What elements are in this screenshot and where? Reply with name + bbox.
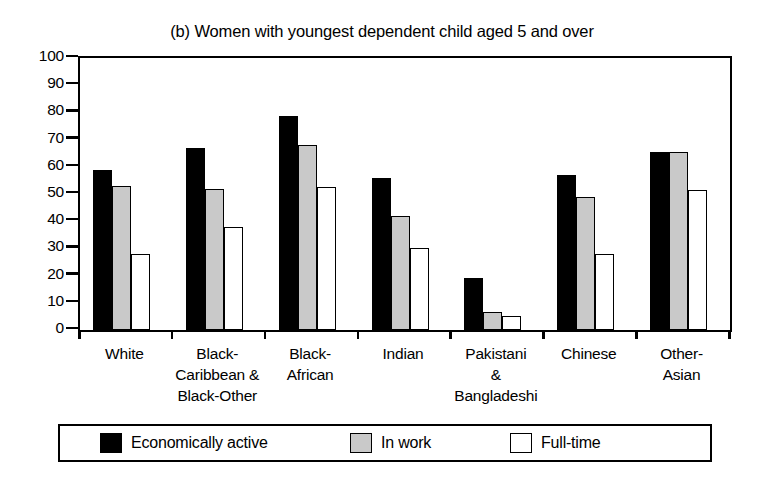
y-axis-tick-label: 60 bbox=[4, 154, 64, 176]
bar-chart-figure: (b) Women with youngest dependent child … bbox=[0, 0, 764, 489]
bar bbox=[131, 254, 150, 330]
y-axis-tick-label: 0 bbox=[4, 317, 64, 339]
bar bbox=[557, 175, 576, 330]
bar bbox=[224, 227, 243, 330]
bar bbox=[372, 178, 391, 330]
bar bbox=[464, 278, 483, 330]
y-axis-tick-label: 20 bbox=[4, 263, 64, 285]
bar bbox=[595, 254, 614, 330]
bar bbox=[688, 190, 707, 330]
y-axis-tick-mark bbox=[66, 300, 78, 303]
bar bbox=[112, 186, 131, 330]
y-axis-tick-label: 40 bbox=[4, 208, 64, 230]
bar bbox=[650, 152, 669, 330]
plot-area bbox=[78, 56, 732, 332]
bar bbox=[502, 316, 521, 330]
bar bbox=[576, 197, 595, 330]
bar bbox=[93, 170, 112, 330]
y-axis-tick-mark bbox=[66, 327, 78, 330]
x-axis-category-label: Other- Asian bbox=[617, 343, 746, 385]
bar bbox=[279, 116, 298, 330]
legend-color-swatch bbox=[510, 433, 532, 453]
y-axis-tick-label: 30 bbox=[4, 235, 64, 257]
bar bbox=[298, 145, 317, 330]
chart-legend: Economically activeIn workFull-time bbox=[58, 424, 712, 462]
bar bbox=[205, 189, 224, 330]
legend-label: Full-time bbox=[541, 434, 601, 452]
y-axis-tick-label: 80 bbox=[4, 99, 64, 121]
legend-entry: Economically active bbox=[100, 426, 268, 459]
legend-label: In work bbox=[381, 434, 431, 452]
bar bbox=[186, 148, 205, 330]
bar bbox=[391, 216, 410, 330]
y-axis-tick-mark bbox=[66, 109, 78, 112]
bar bbox=[317, 187, 336, 330]
y-axis-tick-mark bbox=[66, 245, 78, 248]
y-axis-tick-mark bbox=[66, 164, 78, 167]
y-axis-tick-mark bbox=[66, 136, 78, 139]
legend-color-swatch bbox=[100, 433, 122, 453]
legend-entry: Full-time bbox=[510, 426, 601, 459]
y-axis-tick-mark bbox=[66, 55, 78, 58]
y-axis-tick-label: 70 bbox=[4, 127, 64, 149]
y-axis-tick-label: 100 bbox=[4, 45, 64, 67]
bar bbox=[669, 152, 688, 330]
bar bbox=[410, 248, 429, 330]
bar bbox=[483, 312, 502, 330]
y-axis-tick-mark bbox=[66, 272, 78, 275]
y-axis-tick-mark bbox=[66, 191, 78, 194]
y-axis-tick-mark bbox=[66, 82, 78, 85]
legend-entry: In work bbox=[350, 426, 431, 459]
legend-color-swatch bbox=[350, 433, 372, 453]
chart-title: (b) Women with youngest dependent child … bbox=[0, 22, 764, 41]
legend-label: Economically active bbox=[131, 434, 268, 452]
y-axis-tick-label: 50 bbox=[4, 181, 64, 203]
y-axis-tick-label: 90 bbox=[4, 72, 64, 94]
y-axis-tick-mark bbox=[66, 218, 78, 221]
y-axis-tick-label: 10 bbox=[4, 290, 64, 312]
